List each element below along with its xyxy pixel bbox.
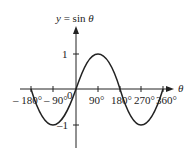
x-tick-label-360: 360° [156,94,177,106]
y-tick-label-neg1: –1 [56,119,68,131]
sine-chart: y = sin θ θ 1 –1 0 – 180° – 90° 90° 180°… [0,0,194,152]
x-axis-arrow-icon [166,86,174,92]
origin-label: 0 [67,89,73,101]
x-axis-label: θ [178,82,184,94]
y-tick-label-1: 1 [62,48,68,60]
x-tick-label-m180: – 180° [12,94,42,106]
chart-title: y = sin θ [55,12,94,24]
y-axis-arrow-icon [73,26,79,34]
x-tick-label-270: 270° [134,94,155,106]
x-tick-label-m90: – 90° [43,94,68,106]
x-tick-label-90: 90° [89,94,104,106]
x-tick-label-180: 180° [111,94,132,106]
